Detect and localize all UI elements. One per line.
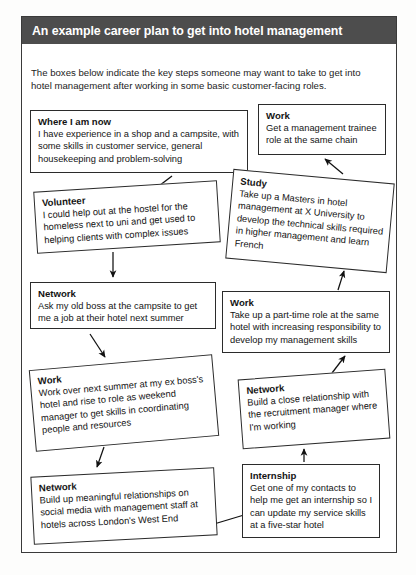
node-network-old-boss[interactable]: Network Ask my old boss at the campsite … <box>30 282 216 329</box>
title-bar: An example career plan to get into hotel… <box>22 17 396 44</box>
node-network-social-media[interactable]: Network Build up meaningful relationship… <box>30 467 217 545</box>
node-work-part-time-role[interactable]: Work Take up a part-time role at the sam… <box>222 291 390 353</box>
node-body: Ask my old boss at the campsite to get m… <box>38 300 209 325</box>
node-heading: Work <box>230 296 383 309</box>
node-where-i-am-now[interactable]: Where I am now I have experience in a sh… <box>30 110 248 173</box>
node-internship[interactable]: Internship Get one of my contacts to hel… <box>242 464 380 538</box>
page-title: An example career plan to get into hotel… <box>22 24 342 38</box>
node-heading: Where I am now <box>38 115 241 128</box>
node-heading: Internship <box>250 469 373 482</box>
node-network-recruitment-manager[interactable]: Network Build a close relationship with … <box>238 369 391 450</box>
node-work-next-summer[interactable]: Work Work over next summer at my ex boss… <box>29 354 219 452</box>
node-volunteer[interactable]: Volunteer I could help out at the hostel… <box>33 180 221 253</box>
node-heading: Network <box>38 287 209 300</box>
node-work-management-trainee[interactable]: Work Get a management trainee role at th… <box>258 104 386 155</box>
node-body: Build up meaningful relationships on soc… <box>39 486 210 532</box>
node-study[interactable]: Study Take up a Masters in hotel managem… <box>225 169 394 273</box>
node-body: Get a management trainee role at the sam… <box>266 122 379 147</box>
node-body: Take up a part-time role at the same hot… <box>230 309 383 346</box>
node-heading: Work <box>266 109 379 122</box>
node-body: Get one of my contacts to help me get an… <box>250 482 373 532</box>
node-body: Take up a Masters in hotel management at… <box>234 187 386 262</box>
page-canvas: An example career plan to get into hotel… <box>0 0 416 575</box>
node-body: I have experience in a shop and a campsi… <box>38 128 241 165</box>
intro-paragraph: The boxes below indicate the key steps s… <box>31 66 383 92</box>
